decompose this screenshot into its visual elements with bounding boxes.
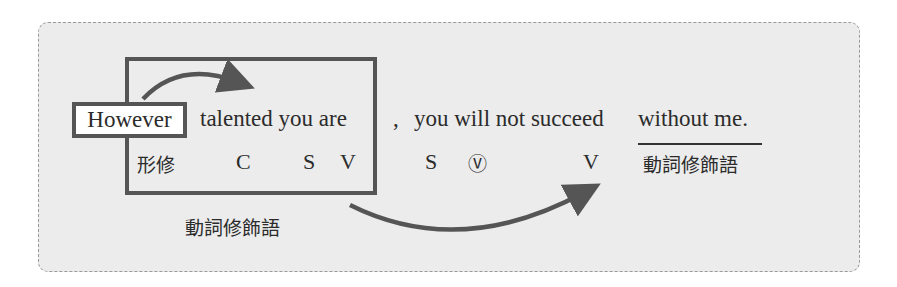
clause-text: talented you are — [200, 106, 347, 132]
comma: , — [393, 106, 399, 132]
label-v1: V — [340, 149, 356, 175]
label-s1: S — [303, 149, 315, 175]
label-s2: S — [425, 149, 437, 175]
label-c: C — [236, 149, 251, 175]
arrows — [0, 0, 897, 287]
arrow-however-to-talented — [143, 74, 238, 99]
label-verb-mod-bottom: 動詞修飾語 — [185, 213, 280, 240]
label-v2: V — [583, 149, 599, 175]
arrow-clause-to-verb — [350, 192, 585, 230]
label-verb-mod-right: 動詞修飾語 — [643, 150, 738, 177]
modifier-overline — [638, 143, 762, 145]
label-adj-mod: 形修 — [137, 150, 175, 177]
modifier-text: without me. — [638, 106, 748, 132]
label-aux-v: Ⓥ — [468, 149, 487, 176]
main-clause-text: you will not succeed — [414, 106, 604, 132]
